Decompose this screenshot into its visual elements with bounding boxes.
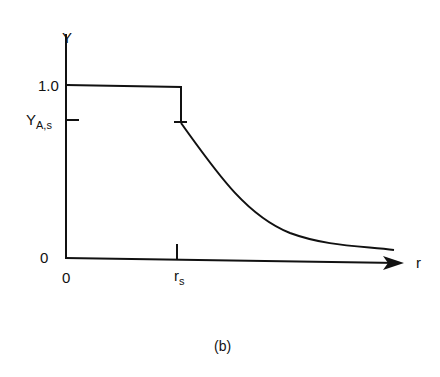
y-tick-label-zero: 0 — [40, 250, 48, 265]
plot-canvas — [0, 0, 440, 377]
x-tick-label-rs: rs — [174, 268, 185, 287]
y-axis-label: Y — [62, 30, 72, 45]
x-rs-sub: s — [179, 275, 185, 287]
series-line-flat — [66, 85, 181, 122]
x-axis-label: r — [416, 255, 421, 270]
series-line-decay — [181, 123, 394, 250]
x-axis — [65, 258, 398, 263]
y-as-main: Y — [26, 111, 36, 128]
y-tick-label-yas: YA,s — [26, 112, 52, 131]
y-tick-label-one: 1.0 — [38, 78, 59, 93]
x-tick-label-zero: 0 — [62, 270, 70, 285]
y-as-sub: A,s — [36, 119, 52, 131]
figure-caption: (b) — [214, 339, 231, 353]
